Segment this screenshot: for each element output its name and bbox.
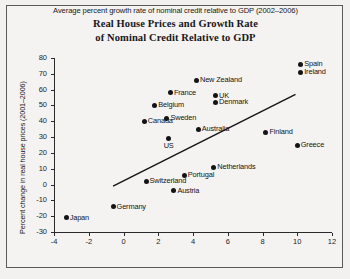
data-point-label: Finland: [269, 128, 292, 136]
data-point-marker: [194, 78, 199, 83]
data-point-label: Australia: [202, 125, 229, 133]
data-point-label: US: [164, 142, 174, 150]
x-tick-label: 4: [182, 238, 204, 246]
data-point-marker: [144, 179, 149, 184]
x-tick-mark: [54, 233, 55, 236]
plot-area: -30-20-1001020304050607080 -4-2024681012…: [7, 6, 344, 269]
data-point-label: Ireland: [304, 68, 326, 76]
data-point-marker: [295, 143, 300, 148]
y-tick-mark: [51, 216, 54, 217]
x-tick-label: 8: [252, 238, 274, 246]
data-point-marker: [142, 119, 147, 124]
data-point-marker: [213, 100, 218, 105]
x-tick-label: 6: [217, 238, 239, 246]
y-tick-label: 60: [25, 86, 47, 94]
x-tick-mark: [158, 233, 159, 236]
x-tick-label: 2: [147, 238, 169, 246]
x-tick-mark: [263, 233, 264, 236]
y-tick-label: 80: [25, 54, 47, 62]
y-tick-label: 40: [25, 117, 47, 125]
y-tick-label: 50: [25, 101, 47, 109]
y-tick-label: 30: [25, 133, 47, 141]
y-tick-mark: [51, 200, 54, 201]
x-tick-label: 0: [113, 238, 135, 246]
data-point-label: Denmark: [219, 98, 248, 106]
data-point-marker: [64, 215, 69, 220]
x-tick-mark: [228, 233, 229, 236]
data-point-label: New Zealand: [200, 76, 242, 84]
y-tick-label: -10: [25, 196, 47, 204]
x-tick-label: -4: [43, 238, 65, 246]
y-tick-label: 70: [25, 70, 47, 78]
x-tick-label: 10: [286, 238, 308, 246]
y-tick-mark: [51, 105, 54, 106]
x-tick-mark: [89, 233, 90, 236]
figure-container: Real House Prices and Growth Rate of Nom…: [0, 0, 350, 279]
y-tick-mark: [51, 137, 54, 138]
y-tick-label: -30: [25, 228, 47, 236]
x-tick-label: 12: [321, 238, 343, 246]
y-tick-label: -20: [25, 212, 47, 220]
y-tick-mark: [51, 74, 54, 75]
data-point-label: Netherlands: [217, 163, 255, 171]
data-point-label: Japan: [70, 214, 89, 222]
x-tick-mark: [124, 233, 125, 236]
data-point-marker: [111, 204, 116, 209]
x-tick-mark: [193, 233, 194, 236]
x-axis-label: Average percent growth rate of nominal c…: [7, 6, 344, 15]
y-tick-mark: [51, 185, 54, 186]
y-tick-mark: [51, 90, 54, 91]
data-point-marker: [298, 70, 303, 75]
x-tick-label: -2: [78, 238, 100, 246]
y-tick-label: 20: [25, 149, 47, 157]
y-tick-mark: [51, 121, 54, 122]
x-tick-mark: [297, 233, 298, 236]
y-tick-mark: [51, 169, 54, 170]
x-tick-mark: [332, 233, 333, 236]
data-point-label: Belgium: [158, 101, 184, 109]
data-point-label: Germany: [117, 203, 146, 211]
trendline: [7, 6, 344, 269]
data-point-label: France: [174, 89, 196, 97]
data-point-marker: [196, 127, 201, 132]
y-tick-label: 10: [25, 165, 47, 173]
data-point-label: Sweden: [170, 114, 196, 122]
data-point-label: Greece: [301, 141, 324, 149]
y-tick-label: 0: [25, 181, 47, 189]
y-axis-label: Percent change in real house prices (200…: [18, 81, 27, 234]
data-point-label: Canada: [148, 117, 173, 125]
y-tick-mark: [51, 153, 54, 154]
y-tick-mark: [51, 58, 54, 59]
figure-frame: Real House Prices and Growth Rate of Nom…: [6, 5, 343, 268]
data-point-label: Austria: [177, 187, 199, 195]
data-point-label: Switzerland: [150, 177, 187, 185]
data-point-label: Portugal: [188, 171, 214, 179]
